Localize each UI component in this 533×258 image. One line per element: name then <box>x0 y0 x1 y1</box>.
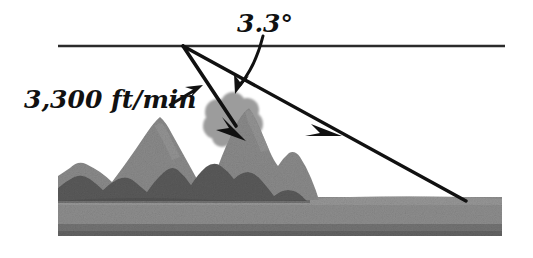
descent-angle-figure: 3.3° 3,300 ft/min <box>0 0 533 258</box>
angle-label: 3.3° <box>237 9 293 38</box>
descent-rate-label: 3,300 ft/min <box>24 85 197 114</box>
angle-label-leader-arrow <box>234 36 263 94</box>
diagram-canvas: 3.3° 3,300 ft/min <box>0 0 533 258</box>
